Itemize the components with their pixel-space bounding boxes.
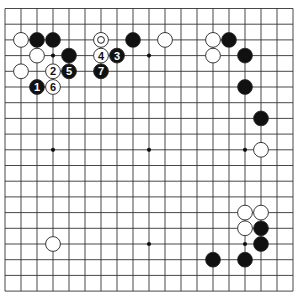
black-stone bbox=[238, 252, 253, 267]
black-stone-numbered: 3 bbox=[110, 48, 125, 63]
black-stone bbox=[206, 252, 221, 267]
black-stone bbox=[222, 33, 237, 48]
black-stone bbox=[126, 33, 141, 48]
white-stone bbox=[14, 33, 29, 48]
black-stone bbox=[46, 33, 61, 48]
star-point bbox=[51, 148, 55, 152]
star-point bbox=[243, 148, 247, 152]
black-stone bbox=[254, 111, 269, 126]
star-point bbox=[243, 242, 247, 246]
move-number: 4 bbox=[98, 50, 105, 62]
star-point bbox=[147, 54, 151, 58]
white-stone bbox=[238, 205, 253, 220]
white-stone-numbered: 4 bbox=[94, 48, 109, 63]
white-stone-marked bbox=[94, 33, 109, 48]
white-stone bbox=[14, 64, 29, 79]
black-stone-numbered: 1 bbox=[30, 80, 45, 95]
move-number: 6 bbox=[50, 81, 56, 93]
move-number: 5 bbox=[66, 65, 72, 77]
black-stone bbox=[30, 33, 45, 48]
black-stone bbox=[238, 80, 253, 95]
move-number: 7 bbox=[98, 65, 104, 77]
black-stone bbox=[254, 221, 269, 236]
white-stone bbox=[238, 221, 253, 236]
white-stone-numbered: 2 bbox=[46, 64, 61, 79]
go-board: 1234567 bbox=[0, 0, 299, 298]
white-stone bbox=[158, 33, 173, 48]
white-stone-numbered: 6 bbox=[46, 80, 61, 95]
black-stone bbox=[254, 237, 269, 252]
white-stone bbox=[254, 142, 269, 157]
white-stone bbox=[46, 237, 61, 252]
move-number: 2 bbox=[50, 65, 56, 77]
move-number: 1 bbox=[34, 81, 40, 93]
star-point bbox=[147, 242, 151, 246]
white-stone bbox=[254, 205, 269, 220]
black-stone-numbered: 7 bbox=[94, 64, 109, 79]
black-stone bbox=[62, 48, 77, 63]
black-stone-numbered: 5 bbox=[62, 64, 77, 79]
white-stone bbox=[206, 48, 221, 63]
black-stone bbox=[238, 48, 253, 63]
star-point bbox=[147, 148, 151, 152]
white-stone bbox=[206, 33, 221, 48]
white-stone bbox=[30, 48, 45, 63]
move-number: 3 bbox=[114, 50, 120, 62]
star-point bbox=[51, 54, 55, 58]
